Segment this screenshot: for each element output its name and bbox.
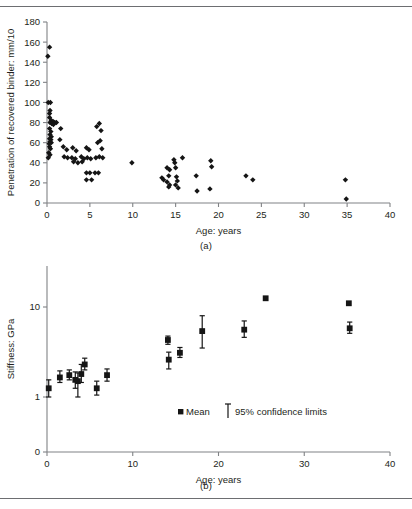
data-point-b bbox=[199, 328, 205, 334]
data-point-b bbox=[66, 372, 72, 378]
data-point-a bbox=[99, 146, 104, 151]
data-point-b bbox=[57, 375, 63, 381]
data-point-a bbox=[343, 177, 348, 182]
data-point-a bbox=[57, 137, 62, 142]
data-point-b bbox=[104, 372, 110, 378]
data-point-a bbox=[207, 186, 212, 191]
x-tick-label-a: 25 bbox=[256, 209, 267, 220]
scatter-plot-stiffness: 0110010203040Age: yearsStiffness: GPaMea… bbox=[0, 256, 412, 496]
x-tick-label-a: 15 bbox=[170, 209, 181, 220]
x-tick-label-a: 0 bbox=[44, 209, 49, 220]
data-point-a bbox=[84, 177, 89, 182]
data-point-b bbox=[94, 385, 100, 391]
data-point-a bbox=[87, 170, 92, 175]
y-tick-label-a: 100 bbox=[24, 97, 40, 108]
x-tick-label-a: 5 bbox=[87, 209, 92, 220]
data-point-a bbox=[344, 196, 349, 201]
x-tick-label-b: 10 bbox=[127, 458, 138, 469]
x-axis-label-a: Age: years bbox=[196, 225, 242, 236]
scatter-plot-penetration: 0204060801001201401601800510152025303540… bbox=[0, 8, 412, 240]
legend-mean-marker bbox=[178, 409, 183, 414]
x-tick-label-a: 30 bbox=[299, 209, 310, 220]
y-tick-label-a: 0 bbox=[35, 197, 40, 208]
y-axis-label-a: Penetration of recovered binder: mm/10 bbox=[5, 29, 16, 196]
x-tick-label-a: 40 bbox=[385, 209, 396, 220]
data-point-a bbox=[180, 155, 185, 160]
data-point-a bbox=[47, 44, 52, 49]
y-tick-label-a: 20 bbox=[29, 177, 40, 188]
y-axis-label-b: Stiffness: GPa bbox=[5, 318, 16, 379]
data-point-b bbox=[263, 295, 269, 301]
data-point-a bbox=[194, 188, 199, 193]
data-point-a bbox=[166, 173, 171, 178]
data-point-b bbox=[347, 325, 353, 331]
data-point-b bbox=[241, 327, 247, 333]
data-point-b bbox=[78, 371, 84, 377]
data-point-a bbox=[89, 177, 94, 182]
panel-b-chart: 0110010203040Age: yearsStiffness: GPaMea… bbox=[0, 256, 412, 496]
panel-a-chart: 0204060801001201401601800510152025303540… bbox=[0, 8, 412, 240]
data-point-a bbox=[75, 160, 80, 165]
figure-container: 0204060801001201401601800510152025303540… bbox=[0, 0, 412, 509]
data-point-a bbox=[98, 128, 103, 133]
data-point-a bbox=[174, 174, 179, 179]
x-tick-label-b: 20 bbox=[213, 458, 224, 469]
data-point-b bbox=[46, 385, 52, 391]
legend-ci-label: 95% confidence limits bbox=[235, 406, 327, 417]
y-tick-label-b: 0 bbox=[35, 446, 40, 457]
top-divider bbox=[0, 6, 412, 7]
data-point-b bbox=[166, 357, 172, 363]
x-tick-label-a: 35 bbox=[342, 209, 353, 220]
panel-a-caption: (a) bbox=[0, 240, 412, 251]
y-tick-label-a: 180 bbox=[24, 16, 40, 27]
y-tick-label-a: 60 bbox=[29, 137, 40, 148]
x-tick-label-b: 0 bbox=[44, 458, 49, 469]
x-tick-label-a: 10 bbox=[127, 209, 138, 220]
data-point-a bbox=[208, 158, 213, 163]
data-point-a bbox=[173, 165, 178, 170]
data-point-b bbox=[165, 337, 171, 343]
legend-mean-label: Mean bbox=[186, 406, 210, 417]
data-point-b bbox=[346, 300, 352, 306]
data-point-a bbox=[96, 170, 101, 175]
data-point-a bbox=[243, 173, 248, 178]
data-point-a bbox=[129, 160, 134, 165]
x-tick-label-b: 30 bbox=[299, 458, 310, 469]
y-tick-label-a: 160 bbox=[24, 37, 40, 48]
y-tick-label-a: 140 bbox=[24, 57, 40, 68]
x-tick-label-b: 40 bbox=[385, 458, 396, 469]
data-point-b bbox=[75, 378, 81, 384]
data-point-a bbox=[209, 164, 214, 169]
y-tick-label-a: 80 bbox=[29, 117, 40, 128]
y-tick-label-b: 1 bbox=[35, 391, 40, 402]
data-point-a bbox=[45, 53, 50, 58]
data-point-b bbox=[177, 350, 183, 356]
y-tick-label-b: 10 bbox=[29, 301, 40, 312]
panel-b-caption: (b) bbox=[0, 480, 412, 491]
data-point-a bbox=[194, 173, 199, 178]
x-tick-label-a: 20 bbox=[213, 209, 224, 220]
bottom-divider bbox=[0, 498, 412, 499]
y-tick-label-a: 40 bbox=[29, 157, 40, 168]
y-tick-label-a: 120 bbox=[24, 77, 40, 88]
data-point-a bbox=[250, 177, 255, 182]
data-point-a bbox=[58, 126, 63, 131]
data-point-b bbox=[82, 362, 88, 368]
